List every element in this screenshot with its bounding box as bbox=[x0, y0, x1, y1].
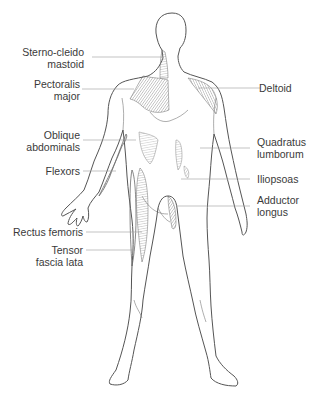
label-oblique-abdominals: Oblique abdominals bbox=[26, 129, 80, 153]
body-outline bbox=[62, 13, 248, 386]
label-oblique-abdominals-line1: Oblique bbox=[26, 129, 80, 141]
label-sternocleidomastoid-line2: mastoid bbox=[22, 58, 84, 70]
label-pectoralis-major-line1: Pectoralis bbox=[34, 78, 80, 90]
label-sternocleidomastoid-line1: Sterno-cleido bbox=[22, 46, 84, 58]
label-quadratus-lumborum-line2: lumborum bbox=[257, 148, 306, 160]
label-tensor-fascia-lata: Tensor fascia lata bbox=[36, 244, 83, 268]
label-adductor-longus-line1: Adductor bbox=[257, 194, 299, 206]
label-deltoid: Deltoid bbox=[259, 82, 292, 94]
label-adductor-longus-line2: longus bbox=[257, 206, 299, 218]
label-adductor-longus: Adductor longus bbox=[257, 194, 299, 218]
label-deltoid-line1: Deltoid bbox=[259, 82, 292, 94]
label-sternocleidomastoid: Sterno-cleido mastoid bbox=[22, 46, 84, 70]
label-pectoralis-major: Pectoralis major bbox=[34, 78, 80, 102]
label-rectus-femoris: Rectus femoris bbox=[13, 226, 83, 238]
label-iliopsoas-line1: Iliopsoas bbox=[257, 173, 298, 185]
label-flexors: Flexors bbox=[46, 165, 80, 177]
label-tensor-fascia-lata-line1: Tensor bbox=[36, 244, 83, 256]
label-tensor-fascia-lata-line2: fascia lata bbox=[36, 256, 83, 268]
label-quadratus-lumborum: Quadratus lumborum bbox=[257, 136, 306, 160]
label-iliopsoas: Iliopsoas bbox=[257, 173, 298, 185]
label-quadratus-lumborum-line1: Quadratus bbox=[257, 136, 306, 148]
label-rectus-femoris-line1: Rectus femoris bbox=[13, 226, 83, 238]
label-flexors-line1: Flexors bbox=[46, 165, 80, 177]
label-oblique-abdominals-line2: abdominals bbox=[26, 141, 80, 153]
label-pectoralis-major-line2: major bbox=[34, 90, 80, 102]
